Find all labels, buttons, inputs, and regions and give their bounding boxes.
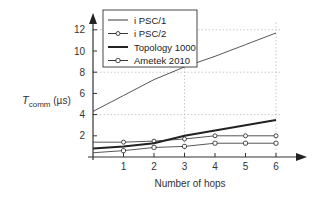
square-marker-icon [122, 149, 126, 153]
x-tick-label: 5 [243, 161, 249, 172]
square-marker-icon [183, 144, 187, 148]
square-marker-icon [213, 141, 217, 145]
square-marker-icon [274, 141, 278, 145]
line-chart: 24681012123456 Tcomm (µs) Number of hops… [0, 0, 321, 202]
y-tick-label: 2 [79, 130, 85, 141]
square-marker-icon [244, 141, 248, 145]
legend-label: Topology 1000 [134, 42, 196, 53]
circle-marker-icon [116, 32, 120, 36]
x-tick-label: 3 [182, 161, 188, 172]
circle-marker-icon [244, 134, 248, 138]
x-tick-label: 2 [151, 161, 157, 172]
circle-marker-icon [122, 140, 126, 144]
y-tick-label: 6 [79, 88, 85, 99]
y-axis-label: Tcomm (µs) [22, 94, 71, 109]
circle-marker-icon [213, 134, 217, 138]
y-tick-label: 10 [74, 46, 86, 57]
y-axis-arrow-icon [89, 13, 97, 24]
x-tick-label: 6 [273, 161, 279, 172]
circle-marker-icon [183, 137, 187, 141]
circle-marker-icon [274, 134, 278, 138]
x-axis-arrow-icon [296, 153, 307, 161]
x-axis-label: Number of hops [154, 178, 225, 189]
y-tick-label: 4 [79, 109, 85, 120]
x-tick-label: 1 [121, 161, 127, 172]
legend-label: i PSC/2 [134, 28, 166, 39]
square-marker-icon [152, 145, 156, 149]
y-tick-label: 12 [74, 24, 86, 35]
square-marker-icon [116, 59, 120, 63]
legend-label: i PSC/1 [134, 15, 166, 26]
legend-label: Ametek 2010 [134, 55, 190, 66]
x-tick-label: 4 [212, 161, 218, 172]
y-tick-label: 8 [79, 67, 85, 78]
legend: i PSC/1i PSC/2Topology 1000Ametek 2010 [103, 10, 197, 67]
